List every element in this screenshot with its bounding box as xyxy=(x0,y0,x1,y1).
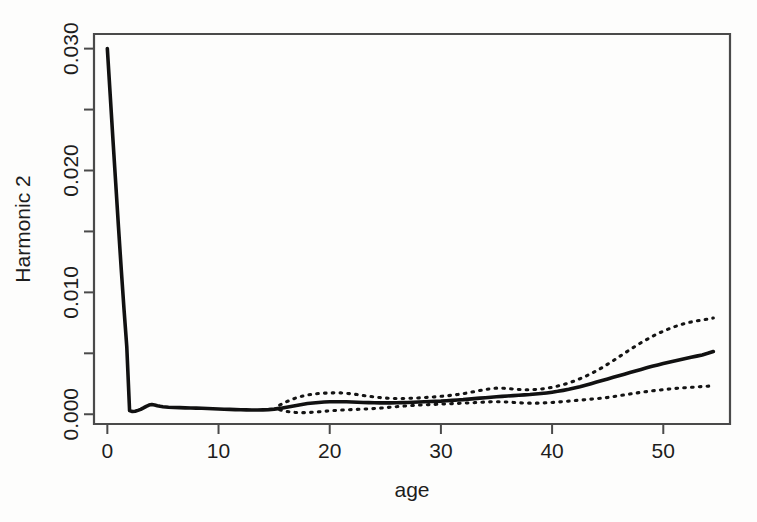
chart-canvas: 0.0000.0100.0200.030 01020304050 age Har… xyxy=(0,0,757,522)
x-tick-label: 20 xyxy=(318,439,341,462)
y-tick-label: 0.030 xyxy=(59,22,82,75)
y-axis-title: Harmonic 2 xyxy=(11,175,34,282)
y-tick-label: 0.000 xyxy=(59,388,82,441)
y-tick-label: 0.010 xyxy=(59,266,82,319)
x-tick-label: 30 xyxy=(429,439,452,462)
y-tick-label: 0.020 xyxy=(59,144,82,197)
series-group xyxy=(107,49,713,413)
x-axis-title: age xyxy=(394,478,429,501)
x-axis-tick-labels: 01020304050 xyxy=(101,439,674,462)
x-tick-label: 50 xyxy=(652,439,675,462)
upper-confidence-band xyxy=(280,318,714,405)
x-tick-label: 40 xyxy=(540,439,563,462)
y-axis-tick-labels: 0.0000.0100.0200.030 xyxy=(59,22,82,440)
fitted-curve xyxy=(107,49,713,412)
figure-container: 0.0000.0100.0200.030 01020304050 age Har… xyxy=(0,0,757,522)
x-tick-label: 0 xyxy=(101,439,113,462)
x-tick-label: 10 xyxy=(207,439,230,462)
y-axis-ticks xyxy=(84,49,94,415)
x-axis-ticks xyxy=(107,424,663,434)
plot-frame xyxy=(94,34,730,424)
